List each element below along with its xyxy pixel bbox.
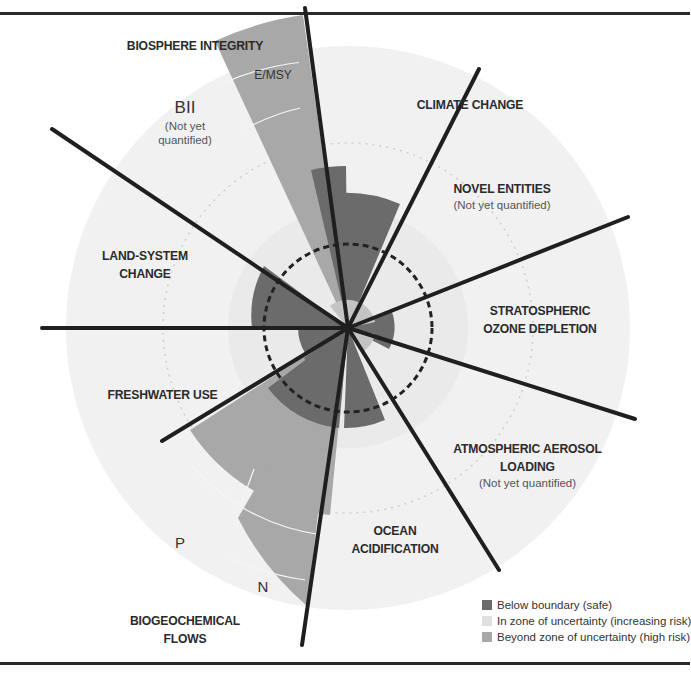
swatch-uncertainty [482, 616, 492, 626]
swatch-high-risk [482, 632, 492, 642]
label-n: N [248, 578, 278, 595]
label-freshwater: FRESHWATER USE [97, 386, 228, 403]
label-emsy: E/MSY [243, 68, 303, 82]
label-aerosol-1: ATMOSPHERIC AEROSOL [449, 440, 607, 457]
label-biogeochemical-1: BIOGEOCHEMICAL [127, 612, 244, 629]
label-aerosol-note: (Not yet quantified) [440, 476, 615, 490]
label-ocean-2: ACIDIFICATION [346, 540, 445, 557]
label-ozone-2: OZONE DEPLETION [477, 320, 603, 337]
label-land-system-1: LAND-SYSTEM [87, 247, 204, 264]
label-ocean-1: OCEAN [346, 522, 445, 539]
label-biosphere-integrity: BIOSPHERE INTEGRITY [114, 37, 276, 54]
label-bii-note-1: (Not yet [140, 119, 230, 133]
label-bii: BII [145, 98, 225, 118]
legend-item-safe: Below boundary (safe) [482, 597, 691, 613]
label-ozone-1: STRATOSPHERIC [477, 302, 603, 319]
legend-label-safe: Below boundary (safe) [497, 597, 612, 613]
label-novel-entities-note: (Not yet quantified) [432, 198, 572, 212]
label-p: P [165, 534, 195, 551]
label-bii-note-2: quantified) [140, 133, 230, 147]
label-aerosol-2: LOADING [449, 458, 607, 475]
legend-item-high-risk: Beyond zone of uncertainty (high risk) [482, 629, 691, 645]
swatch-safe [482, 600, 492, 610]
legend-item-uncertainty: In zone of uncertainty (increasing risk) [482, 613, 691, 629]
label-novel-entities: NOVEL ENTITIES [439, 180, 565, 197]
label-land-system-2: CHANGE [87, 265, 204, 282]
label-climate-change: CLIMATE CHANGE [407, 96, 533, 113]
legend-label-high-risk: Beyond zone of uncertainty (high risk) [497, 629, 690, 645]
legend: Below boundary (safe) In zone of uncerta… [482, 597, 691, 645]
label-biogeochemical-2: FLOWS [127, 630, 244, 647]
legend-label-uncertainty: In zone of uncertainty (increasing risk) [497, 613, 691, 629]
